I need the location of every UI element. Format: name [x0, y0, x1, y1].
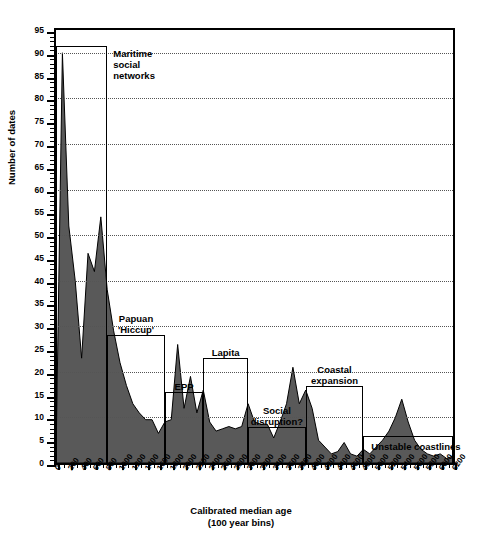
x-axis-title-line2: (100 year bins): [0, 517, 482, 529]
y-tick: [50, 228, 56, 229]
annotation-box-papuan: [107, 335, 165, 463]
y-tick-label: 45: [8, 254, 44, 263]
y-tick: [50, 269, 56, 270]
y-tick: [50, 424, 56, 425]
y-tick-label: 15: [8, 391, 44, 400]
y-tick-label: 85: [8, 72, 44, 81]
y-tick-label: 80: [8, 94, 44, 103]
y-tick: [50, 401, 56, 402]
y-tick-label: 35: [8, 299, 44, 308]
y-tick: [50, 342, 56, 343]
y-tick: [50, 196, 56, 197]
y-tick-label: 10: [8, 413, 44, 422]
y-tick: [47, 123, 56, 125]
annotation-box-coastal: [306, 386, 364, 463]
y-tick: [50, 383, 56, 384]
y-tick: [50, 274, 56, 275]
y-tick: [47, 328, 56, 330]
y-tick: [50, 460, 56, 461]
y-tick: [50, 447, 56, 448]
y-tick: [50, 301, 56, 302]
y-tick: [50, 315, 56, 316]
y-tick: [50, 292, 56, 293]
annotation-box-maritime: [56, 46, 107, 463]
annotation-label-lapita: Lapita: [212, 347, 240, 358]
y-tick: [47, 397, 56, 399]
gridline: [56, 144, 453, 145]
y-tick: [50, 451, 56, 452]
y-tick-label: 25: [8, 345, 44, 354]
annotation-label-maritime: Maritime social networks: [113, 48, 155, 81]
y-tick: [50, 296, 56, 297]
y-tick: [50, 410, 56, 411]
y-tick: [50, 164, 56, 165]
y-tick: [47, 146, 56, 148]
y-tick: [50, 388, 56, 389]
y-tick: [50, 41, 56, 42]
y-tick: [50, 173, 56, 174]
y-tick: [47, 283, 56, 285]
y-tick: [47, 419, 56, 421]
y-tick: [47, 374, 56, 376]
y-tick: [50, 59, 56, 60]
y-tick: [50, 378, 56, 379]
y-tick: [50, 91, 56, 92]
y-tick: [50, 415, 56, 416]
annotation-label-social: Social disruption?: [251, 405, 303, 427]
y-tick-label: 0: [8, 459, 44, 468]
y-tick: [50, 87, 56, 88]
annotation-box-epp: [165, 392, 203, 463]
y-tick: [50, 264, 56, 265]
y-tick: [50, 356, 56, 357]
y-tick: [50, 346, 56, 347]
y-tick: [50, 182, 56, 183]
x-tick: [64, 463, 65, 468]
y-tick-label: 30: [8, 322, 44, 331]
y-tick: [50, 96, 56, 97]
gridline: [56, 190, 453, 191]
y-tick: [50, 223, 56, 224]
gridline: [56, 235, 453, 236]
y-tick: [50, 73, 56, 74]
y-tick: [50, 310, 56, 311]
y-tick: [47, 100, 56, 102]
y-tick-label: 20: [8, 368, 44, 377]
y-tick: [50, 287, 56, 288]
y-tick: [50, 456, 56, 457]
y-tick: [50, 46, 56, 47]
y-tick: [47, 192, 56, 194]
y-tick: [47, 351, 56, 353]
plot-inner: [56, 30, 453, 463]
y-tick: [47, 32, 56, 34]
y-tick: [47, 55, 56, 57]
plot-area: [54, 28, 455, 465]
annotation-label-papuan: Papuan 'Hiccup': [118, 313, 154, 335]
y-tick-label: 70: [8, 140, 44, 149]
y-tick: [50, 205, 56, 206]
y-tick: [47, 237, 56, 239]
gridline: [56, 326, 453, 327]
annotation-label-unstable: Unstable coastlines: [371, 441, 460, 452]
y-tick: [47, 442, 56, 444]
y-tick: [50, 137, 56, 138]
y-tick: [50, 160, 56, 161]
y-tick: [50, 64, 56, 65]
y-tick: [50, 210, 56, 211]
y-tick: [50, 392, 56, 393]
y-tick: [50, 219, 56, 220]
y-tick-label: 5: [8, 436, 44, 445]
y-tick: [50, 37, 56, 38]
y-tick: [50, 438, 56, 439]
y-tick: [50, 105, 56, 106]
y-tick: [47, 214, 56, 216]
y-tick: [50, 369, 56, 370]
y-tick: [50, 246, 56, 247]
y-tick: [50, 50, 56, 51]
y-tick: [50, 278, 56, 279]
y-tick: [50, 132, 56, 133]
y-tick: [47, 169, 56, 171]
y-tick-label: 55: [8, 208, 44, 217]
y-tick: [47, 260, 56, 262]
y-tick: [50, 251, 56, 252]
y-tick: [50, 109, 56, 110]
